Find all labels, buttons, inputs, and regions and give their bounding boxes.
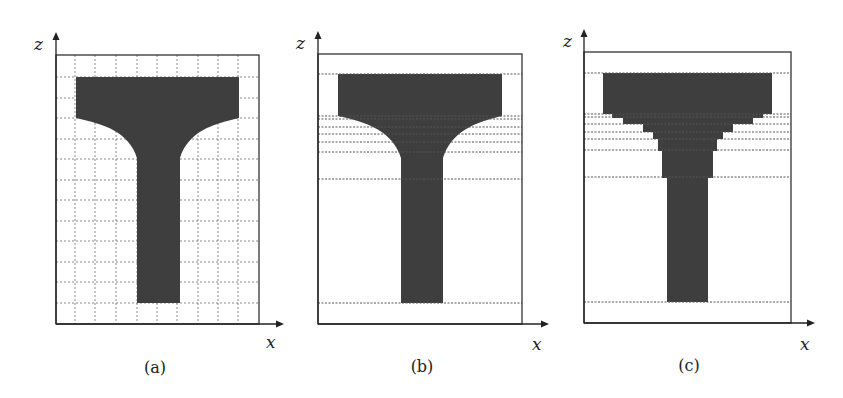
z-axis-label: z	[33, 34, 44, 54]
panel-caption: (c)	[678, 356, 699, 375]
panel-caption: (a)	[144, 358, 166, 377]
x-axis-label: x	[266, 332, 276, 352]
x-axis-label: x	[532, 334, 542, 354]
figure-canvas: z x (a) z x (b)	[0, 0, 843, 398]
panel-a: z x (a)	[33, 34, 282, 377]
x-axis-label: x	[800, 334, 810, 354]
z-axis-label: z	[295, 33, 306, 53]
stepped-section-shape	[603, 73, 772, 302]
panel-caption: (b)	[411, 357, 434, 376]
t-section-shape	[76, 77, 239, 303]
z-axis-label: z	[562, 31, 573, 51]
t-section-shape	[338, 74, 502, 303]
panel-b: z x (b)	[295, 33, 547, 376]
panel-c: z x (c)	[562, 31, 813, 375]
